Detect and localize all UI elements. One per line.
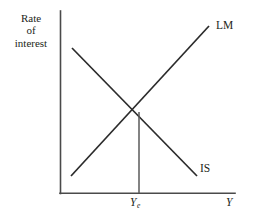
is-lm-diagram: Rate of interest LM IS Ye Y bbox=[0, 0, 253, 221]
y-axis-label-line-2: of bbox=[6, 24, 56, 36]
x-axis-label: Y bbox=[226, 196, 232, 209]
y-axis-label-line-3: interest bbox=[6, 37, 56, 49]
is-curve bbox=[72, 48, 197, 176]
equilibrium-output-base: Y bbox=[130, 196, 136, 208]
equilibrium-output-label: Ye bbox=[130, 196, 140, 209]
is-curve-label: IS bbox=[200, 162, 210, 175]
y-axis-label: Rate of interest bbox=[6, 12, 56, 49]
y-axis-label-line-1: Rate bbox=[6, 12, 56, 24]
lm-curve bbox=[71, 26, 209, 176]
equilibrium-output-subscript: e bbox=[137, 201, 140, 210]
lm-curve-label: LM bbox=[216, 19, 233, 32]
